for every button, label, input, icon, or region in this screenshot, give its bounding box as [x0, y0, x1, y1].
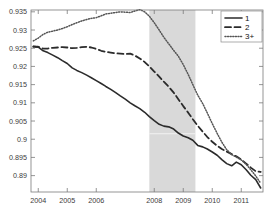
recession-shading [149, 10, 195, 192]
y-tick-label: 0.915 [9, 80, 27, 89]
x-tick-label: 2006 [88, 196, 104, 205]
x-tick-label: 2010 [204, 196, 220, 205]
x-tick-label: 2011 [234, 196, 249, 205]
y-tick-label: 0.93 [13, 26, 27, 35]
chart-figure: 0.890.8950.90.9050.910.9150.920.9250.930… [0, 0, 268, 214]
line-chart: 0.890.8950.90.9050.910.9150.920.9250.930… [0, 0, 268, 214]
chart-legend: 123+ [221, 11, 262, 42]
legend-label-1: 1 [245, 14, 250, 23]
y-tick-label: 0.9 [17, 135, 27, 144]
recession-band [149, 10, 195, 192]
x-tick-label: 2008 [146, 196, 162, 205]
y-tick-label: 0.92 [13, 62, 27, 71]
x-tick-label: 2009 [175, 196, 191, 205]
legend-label-3+: 3+ [245, 32, 254, 41]
y-tick-label: 0.89 [13, 171, 27, 180]
y-tick-label: 0.925 [9, 44, 27, 53]
x-tick-label: 2004 [30, 196, 46, 205]
x-tick-label: 2005 [59, 196, 75, 205]
y-tick-label: 0.895 [9, 153, 27, 162]
y-tick-label: 0.91 [13, 98, 27, 107]
y-tick-label: 0.935 [9, 7, 27, 16]
y-tick-label: 0.905 [9, 117, 27, 126]
legend-label-2: 2 [245, 23, 250, 32]
